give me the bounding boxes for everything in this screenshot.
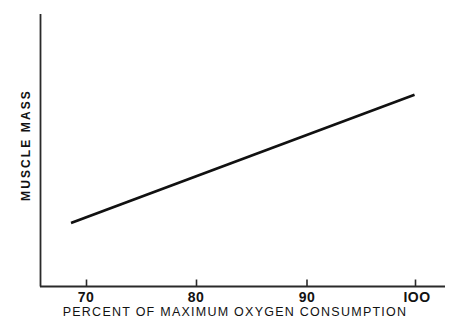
chart-figure: MUSCLE MASS 70 80 90 IOO PERCENT OF MAXI… [0, 0, 466, 332]
x-tick-label-70: 70 [78, 290, 95, 304]
x-axis-tick-marks [87, 280, 416, 287]
chart-plot-area [0, 0, 466, 332]
y-axis-title: MUSCLE MASS [20, 89, 32, 201]
data-series-group [72, 95, 413, 222]
x-tick-label-80: 80 [188, 290, 205, 304]
line-series-muscle-mass [72, 95, 413, 222]
x-axis-title: PERCENT OF MAXIMUM OXYGEN CONSUMPTION [63, 306, 408, 319]
x-tick-label-90: 90 [299, 290, 316, 304]
x-tick-label-100: IOO [403, 290, 430, 304]
